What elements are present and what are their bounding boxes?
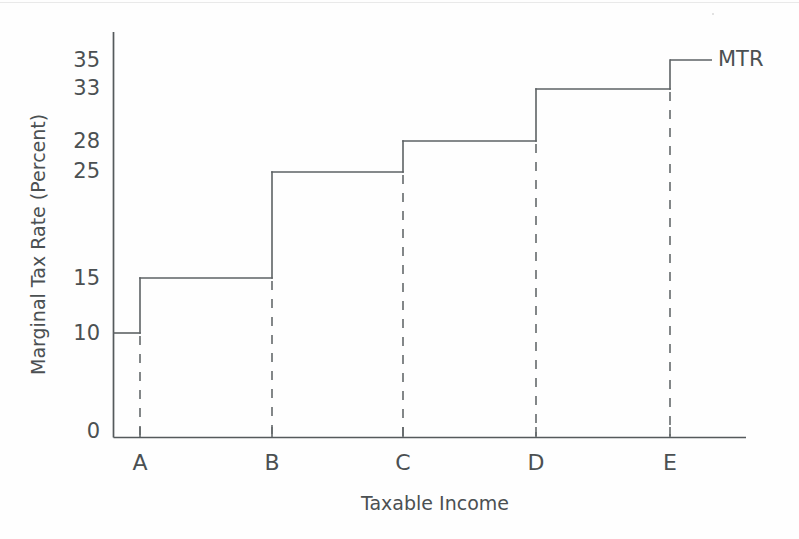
legend-label-mtr: MTR (718, 47, 764, 71)
x-tick-label-b: B (252, 450, 292, 475)
chart-figure: 35 33 28 25 15 10 0 A B C D E Taxable In… (0, 0, 799, 539)
x-axis-title: Taxable Income (305, 492, 565, 514)
y-tick-label-35: 35 (56, 48, 100, 72)
y-tick-label-28: 28 (56, 129, 100, 153)
y-tick-label-15: 15 (56, 266, 100, 290)
x-tick-label-a: A (120, 450, 160, 475)
y-tick-label-10: 10 (56, 321, 100, 345)
x-tick-label-d: D (516, 450, 556, 475)
y-tick-label-33: 33 (56, 76, 100, 100)
y-tick-label-0: 0 (56, 419, 100, 443)
x-tick-label-e: E (650, 450, 690, 475)
y-axis-title: Marginal Tax Rate (Percent) (27, 114, 49, 375)
y-tick-label-25: 25 (56, 159, 100, 183)
x-tick-label-c: C (383, 450, 423, 475)
